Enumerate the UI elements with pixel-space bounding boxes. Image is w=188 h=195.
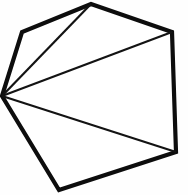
hexagon-outline [2, 4, 176, 190]
polygon-triangulation-figure [0, 0, 188, 195]
figure-canvas [0, 0, 188, 195]
